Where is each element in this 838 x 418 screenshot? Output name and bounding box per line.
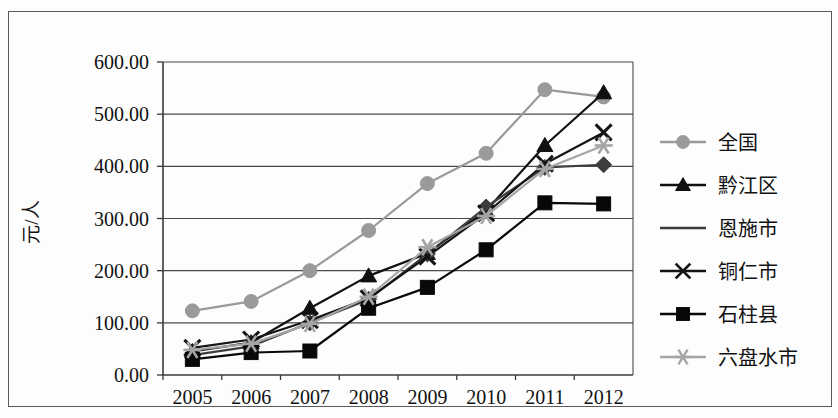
x-tick-label: 2011: [525, 386, 564, 408]
y-axis-title: 元/人: [21, 200, 42, 243]
x-tick-label: 2005: [172, 386, 212, 408]
chart-figure: 0.00100.00200.00300.00400.00500.00600.00…: [0, 0, 838, 418]
legend-label: 黔江区: [718, 175, 778, 197]
legend-item-石柱县[interactable]: 石柱县: [660, 304, 778, 326]
x-axis-tick-labels: 20052006200720082009201020112012: [172, 386, 623, 408]
y-tick-label: 300.00: [94, 208, 149, 230]
axis-ticks: [157, 62, 574, 380]
legend-item-恩施市[interactable]: 恩施市: [660, 218, 778, 240]
y-tick-label: 200.00: [94, 260, 149, 282]
y-tick-label: 400.00: [94, 155, 149, 177]
y-tick-label: 0.00: [114, 364, 149, 386]
x-tick-label: 2007: [290, 386, 330, 408]
legend-item-铜仁市[interactable]: 铜仁市: [660, 261, 778, 283]
legend-label: 六盘水市: [718, 347, 798, 369]
legend-label: 石柱县: [718, 304, 778, 326]
legend-label: 铜仁市: [718, 261, 778, 283]
line-chart: 0.00100.00200.00300.00400.00500.00600.00…: [0, 0, 838, 418]
x-tick-label: 2010: [466, 386, 506, 408]
y-tick-label: 500.00: [94, 103, 149, 125]
series-黔江区: [184, 85, 611, 358]
legend-item-六盘水市[interactable]: 六盘水市: [660, 347, 798, 369]
legend-label: 全国: [718, 132, 758, 154]
chart-legend: 全国黔江区恩施市铜仁市石柱县六盘水市: [660, 132, 798, 369]
legend-label: 恩施市: [718, 218, 778, 240]
series-恩施市: [184, 157, 611, 363]
y-axis-tick-labels: 0.00100.00200.00300.00400.00500.00600.00: [94, 51, 149, 386]
legend-item-黔江区[interactable]: 黔江区: [660, 175, 778, 197]
gridlines: [163, 62, 633, 375]
series-铜仁市: [184, 124, 611, 355]
x-tick-label: 2006: [231, 386, 271, 408]
y-tick-label: 100.00: [94, 312, 149, 334]
legend-item-全国[interactable]: 全国: [660, 132, 758, 154]
x-tick-label: 2008: [349, 386, 389, 408]
x-tick-label: 2009: [407, 386, 447, 408]
y-tick-label: 600.00: [94, 51, 149, 73]
x-tick-label: 2012: [584, 386, 624, 408]
data-series: [183, 83, 612, 367]
